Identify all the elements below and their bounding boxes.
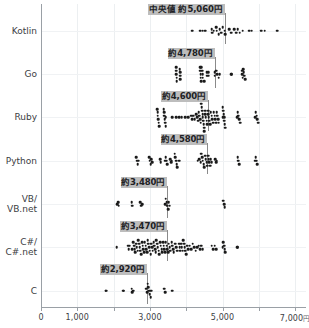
data-point	[171, 289, 174, 292]
data-point	[117, 204, 120, 207]
data-point	[215, 26, 218, 29]
data-point	[223, 120, 226, 123]
data-point	[191, 30, 194, 33]
data-point	[170, 241, 173, 244]
data-point	[223, 30, 226, 33]
data-point	[157, 114, 160, 117]
data-point	[185, 253, 188, 256]
data-point	[222, 26, 225, 29]
gridline-vertical	[223, 4, 224, 307]
gridline-vertical	[77, 4, 78, 307]
x-axis-tick-mark	[223, 307, 224, 311]
data-point	[222, 106, 225, 109]
data-point	[210, 114, 213, 117]
data-point	[128, 248, 131, 251]
data-point	[146, 282, 149, 285]
data-point	[256, 118, 259, 121]
data-point	[194, 249, 197, 252]
data-point	[149, 296, 152, 299]
plot-area: 中央値 約5,060円約4,780円約4,600円約4,580円約3,480円約…	[41, 4, 306, 307]
data-point	[244, 78, 247, 81]
x-axis-tick-mark	[259, 307, 260, 311]
data-point	[173, 153, 176, 156]
data-point	[165, 156, 168, 159]
data-point	[217, 118, 220, 121]
data-point	[223, 123, 226, 126]
y-axis-label-vb-vb-net: VB/VB.net	[7, 194, 37, 214]
data-point	[220, 31, 223, 34]
data-point	[236, 246, 239, 249]
data-point	[236, 28, 239, 31]
data-point	[215, 159, 218, 162]
data-point	[117, 201, 120, 204]
dot-plot-chart: 中央値 約5,060円約4,780円約4,600円約4,580円約3,480円約…	[0, 0, 309, 328]
data-point	[173, 251, 176, 254]
data-point	[137, 159, 140, 162]
data-point	[200, 66, 203, 69]
x-axis-tick-mark	[186, 307, 187, 311]
y-axis-label-kotlin: Kotlin	[12, 26, 37, 36]
data-point	[181, 116, 184, 119]
data-point	[236, 156, 239, 159]
data-point	[200, 244, 203, 247]
data-point	[147, 286, 150, 289]
data-point	[175, 76, 178, 79]
data-point	[156, 111, 159, 114]
gridline-vertical	[259, 4, 260, 307]
data-point	[210, 158, 213, 161]
data-point	[215, 248, 218, 251]
data-point	[167, 201, 170, 204]
y-axis-label-go: Go	[25, 69, 37, 79]
data-point	[224, 33, 227, 36]
data-point	[242, 71, 245, 74]
data-point	[179, 78, 182, 81]
data-point	[215, 69, 218, 72]
data-point	[105, 289, 108, 292]
data-point	[200, 153, 203, 156]
gridline-horizontal	[41, 31, 306, 32]
data-point	[223, 116, 226, 119]
data-point	[165, 159, 168, 162]
data-point	[151, 161, 154, 164]
data-point	[175, 66, 178, 69]
x-axis-tick-label: 1,000	[66, 313, 89, 322]
data-point	[238, 31, 241, 34]
data-point	[164, 125, 167, 128]
data-point	[218, 76, 221, 79]
data-point	[167, 208, 170, 211]
data-point	[239, 121, 242, 124]
data-point	[155, 239, 158, 242]
data-point	[213, 244, 216, 247]
data-point	[146, 239, 149, 242]
data-point	[149, 293, 152, 296]
data-point	[137, 239, 140, 242]
data-point	[218, 121, 221, 124]
data-point	[174, 243, 177, 246]
data-point	[235, 31, 238, 34]
data-point	[203, 126, 206, 129]
data-point	[238, 163, 241, 166]
data-point	[168, 204, 171, 207]
data-point	[216, 114, 219, 117]
data-point	[174, 156, 177, 159]
data-point	[202, 248, 205, 251]
data-point	[197, 111, 200, 114]
data-point	[215, 111, 218, 114]
data-point	[210, 161, 213, 164]
data-point	[201, 76, 204, 79]
median-label: 約2,920円	[101, 264, 147, 275]
data-point	[166, 163, 169, 166]
x-axis-tick-mark	[150, 307, 151, 311]
x-axis-tick-mark	[41, 307, 42, 311]
data-point	[179, 71, 182, 74]
data-point	[150, 289, 153, 292]
data-point	[182, 239, 185, 242]
data-point	[122, 289, 125, 292]
data-point	[242, 30, 245, 33]
gridline-horizontal	[41, 74, 306, 75]
data-point	[179, 75, 182, 78]
data-point	[242, 68, 245, 71]
x-axis-tick-mark	[114, 307, 115, 311]
data-point	[222, 199, 225, 202]
data-point	[243, 75, 246, 78]
